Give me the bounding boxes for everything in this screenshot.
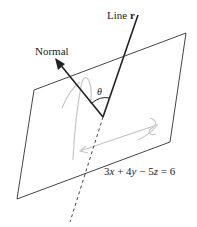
line-r-label: Line r — [107, 9, 135, 21]
op-minus: − — [139, 165, 145, 177]
plane-equation: 3x + 4y − 5z = 6 — [104, 165, 175, 177]
faint-sketch-marks — [62, 78, 158, 160]
var-z: z — [154, 165, 158, 177]
diagram-canvas — [0, 0, 197, 227]
rhs-value: 6 — [170, 165, 176, 177]
line-label-text: Line — [107, 9, 127, 21]
line-symbol: r — [130, 9, 135, 21]
line-r — [103, 15, 138, 117]
theta-label: θ — [97, 86, 102, 97]
var-y: y — [132, 165, 137, 177]
normal-label: Normal — [35, 45, 69, 57]
op-plus: + — [117, 165, 123, 177]
op-equals: = — [161, 165, 167, 177]
var-x: x — [110, 165, 115, 177]
